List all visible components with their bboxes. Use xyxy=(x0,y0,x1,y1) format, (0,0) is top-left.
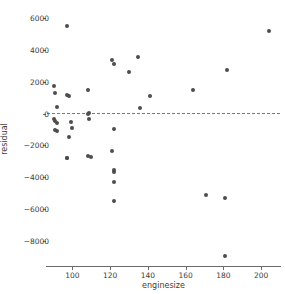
data-point xyxy=(69,120,73,124)
residual-scatter-figure: 100120140160180200 −8000−6000−4000−20000… xyxy=(0,0,285,294)
x-tick-120 xyxy=(110,267,111,270)
y-axis-label: residual xyxy=(0,12,12,266)
x-ticklabel-100: 100 xyxy=(65,271,79,280)
x-tick-200 xyxy=(261,267,262,270)
data-point xyxy=(86,88,90,92)
x-axis-label: enginesize xyxy=(46,281,281,290)
data-point xyxy=(67,94,71,98)
zero-reference-line xyxy=(47,113,280,114)
x-ticklabel-200: 200 xyxy=(254,271,268,280)
data-point xyxy=(267,29,271,33)
data-point xyxy=(55,121,59,125)
y-ticklabel-4000: 4000 xyxy=(30,46,49,55)
x-ticklabel-160: 160 xyxy=(178,271,192,280)
data-point xyxy=(86,112,90,116)
y-ticklabel--6000: −6000 xyxy=(24,204,49,213)
x-ticklabel-180: 180 xyxy=(216,271,230,280)
y-ticklabel-0: 0 xyxy=(44,109,49,118)
data-point xyxy=(112,199,116,203)
data-point xyxy=(52,84,56,88)
x-ticklabel-140: 140 xyxy=(141,271,155,280)
y-ticklabel--2000: −2000 xyxy=(24,141,49,150)
y-ticklabel-6000: 6000 xyxy=(30,14,49,23)
x-axis-spine xyxy=(46,266,281,267)
data-point xyxy=(112,62,116,66)
y-ticklabel--4000: −4000 xyxy=(24,173,49,182)
data-point xyxy=(148,94,152,98)
y-ticklabel--8000: −8000 xyxy=(24,236,49,245)
plot-area xyxy=(46,12,280,266)
data-point xyxy=(110,149,114,153)
x-tick-100 xyxy=(72,267,73,270)
x-ticklabel-120: 120 xyxy=(103,271,117,280)
y-ticklabel-2000: 2000 xyxy=(30,77,49,86)
x-tick-180 xyxy=(223,267,224,270)
x-tick-160 xyxy=(186,267,187,270)
x-tick-140 xyxy=(148,267,149,270)
data-point xyxy=(127,70,131,74)
